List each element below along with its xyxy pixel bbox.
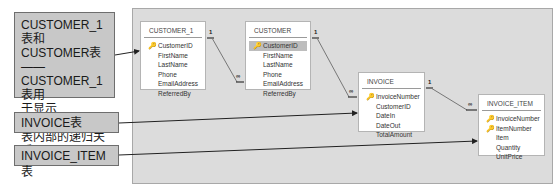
callout-arrow	[119, 141, 477, 155]
cardinality-one: 1	[209, 29, 212, 35]
cardinality-many: ∞	[468, 101, 472, 107]
cardinality-one: 1	[428, 79, 431, 85]
cardinality-one: 1	[314, 29, 317, 35]
callout-arrow	[119, 113, 357, 123]
callout-arrow	[115, 51, 139, 55]
cardinality-many: ∞	[349, 88, 353, 94]
cardinality-many: ∞	[236, 73, 240, 79]
connector-lines	[0, 0, 559, 193]
